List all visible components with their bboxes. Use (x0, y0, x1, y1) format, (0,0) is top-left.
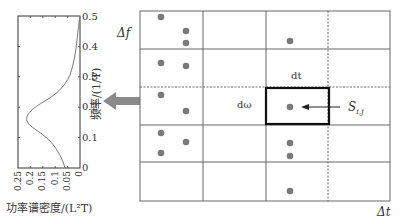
dot (287, 104, 294, 111)
dot (158, 14, 165, 21)
dot (183, 63, 190, 70)
dot (183, 139, 190, 146)
dot (158, 150, 165, 157)
y-tick: 0.5 (82, 11, 98, 22)
y-axis-label: 频率/(1/T) (89, 68, 103, 120)
dot (287, 188, 294, 195)
dot (158, 130, 165, 137)
x-tick-labels: 0.25 0.2 0.15 0.1 0.05 0 (13, 171, 84, 191)
top-ticks (18, 16, 80, 168)
highlighted-cell (266, 88, 329, 124)
x-tick: 0 (74, 171, 84, 177)
diagram-canvas: 0 0.1 0.2 0.3 0.4 0.5 0.25 0.2 0.15 0.1 … (0, 0, 400, 221)
sample-dots (158, 14, 294, 195)
dot (287, 38, 294, 45)
spectrum-plot: 0 0.1 0.2 0.3 0.4 0.5 0.25 0.2 0.15 0.1 … (6, 11, 103, 215)
dot (183, 40, 190, 47)
x-tick: 0.1 (50, 171, 60, 185)
x-tick: 0.2 (25, 171, 35, 185)
delta-f-label: Δf (116, 26, 133, 40)
dot (158, 60, 165, 67)
pointer-arrow-icon (301, 104, 340, 110)
cell-label: Si,j (348, 100, 364, 116)
dot (183, 28, 190, 35)
plot-frame (18, 16, 80, 168)
dot (158, 92, 165, 99)
x-tick: 0.15 (37, 171, 47, 191)
delta-t-label: Δt (376, 205, 391, 219)
dt-label: dt (291, 70, 301, 81)
dot (287, 153, 294, 160)
x-tick: 0.25 (13, 171, 23, 191)
psd-curve (27, 16, 80, 168)
y-tick: 0.4 (82, 41, 98, 52)
dot (287, 140, 294, 147)
left-block-arrow-icon (103, 92, 140, 110)
x-axis-label: 功率谱密度/(L²T) (6, 201, 92, 215)
x-tick: 0.05 (62, 171, 72, 191)
domega-label: dω (237, 99, 252, 110)
y-tick: 0.1 (82, 132, 98, 143)
dot (183, 108, 190, 115)
